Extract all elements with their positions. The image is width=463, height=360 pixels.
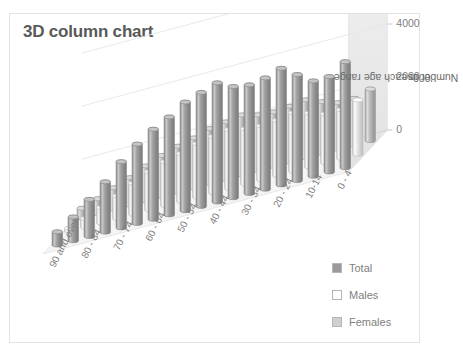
legend-item[interactable]: Females [332, 316, 427, 328]
y-axis-title: Number in each age range '000s [400, 60, 416, 260]
legend-item-label: Females [349, 316, 391, 328]
legend-item-label: Males [349, 289, 378, 301]
legend-item[interactable]: Total [332, 262, 427, 274]
chart-container: 3D column chart [9, 13, 420, 343]
y-axis-title-line2: '000s [358, 72, 463, 84]
legend-item-label: Total [349, 262, 372, 274]
chart-legend: TotalMalesFemales [332, 262, 427, 343]
legend-swatch-icon [332, 317, 342, 327]
legend-item[interactable]: Males [332, 289, 427, 301]
legend-swatch-icon [332, 290, 342, 300]
legend-swatch-icon [332, 263, 342, 273]
